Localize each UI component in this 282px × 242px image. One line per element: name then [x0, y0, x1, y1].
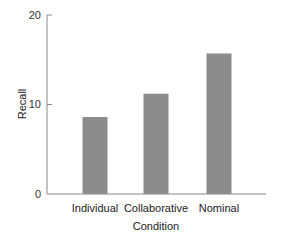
bar-collaborative	[144, 94, 169, 194]
y-tick-label: 0	[35, 188, 41, 200]
x-axis-title: Condition	[133, 220, 179, 232]
x-tick-label: Nominal	[199, 202, 239, 214]
y-tick-label: 20	[29, 9, 41, 21]
bars	[83, 53, 232, 194]
y-tick-label: 10	[29, 98, 41, 110]
x-tick-label: Collaborative	[124, 202, 188, 214]
x-tick-label: Individual	[72, 202, 118, 214]
bar-nominal	[207, 53, 232, 194]
y-axis-title: Recall	[16, 89, 28, 120]
bar-individual	[83, 117, 108, 194]
bar-chart: 20 10 0 Individual Collaborative Nominal…	[0, 0, 282, 242]
